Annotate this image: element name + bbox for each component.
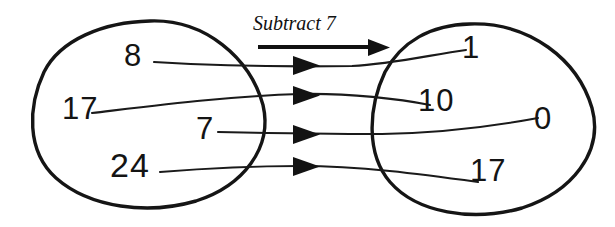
input-element-7: 7 [196,113,214,144]
operation-label: Subtract 7 [253,13,336,33]
output-element-0: 0 [534,103,552,134]
mapping-line-8-to-1 [154,50,466,75]
input-element-8: 8 [124,40,142,71]
mapping-line-24-to-17 [160,157,478,182]
mapping-arrowhead-3 [293,125,320,144]
mapping-diagram-page: Subtract 7 8 17 7 24 1 10 0 17 [0,0,615,227]
operation-arrow [258,39,390,56]
input-element-24: 24 [110,148,150,182]
output-element-1: 1 [462,32,480,63]
output-element-17: 17 [470,155,506,186]
output-element-10: 10 [418,85,454,116]
mapping-arrowhead-2 [293,86,320,105]
mapping-arrowhead-4 [293,157,320,176]
mapping-arrowhead-1 [293,56,320,75]
input-element-17: 17 [62,93,98,124]
